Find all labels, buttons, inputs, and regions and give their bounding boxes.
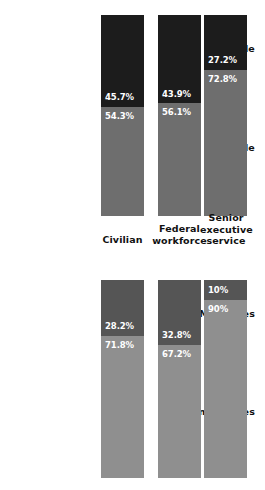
bar-value-nonminorities-federal-workforce: 67.2%	[162, 350, 191, 359]
bar-segment-male-senior-executive-service: 72.8%	[204, 70, 247, 216]
bar-civilian-gender: 45.7% 54.3%	[101, 15, 144, 216]
bar-segment-male-civilian: 54.3%	[101, 107, 144, 216]
bar-federal-workforce-ethnicity: 32.8% 67.2%	[158, 280, 201, 478]
category-label-civilian: Civilian	[96, 234, 149, 246]
bar-value-female-senior-executive-service: 27.2%	[208, 56, 237, 65]
bar-segment-male-federal-workforce: 56.1%	[158, 103, 201, 216]
bar-civilian-ethnicity: 28.2% 71.8%	[101, 280, 144, 478]
bar-segment-female-senior-executive-service: 27.2%	[204, 15, 247, 70]
bar-value-female-federal-workforce: 43.9%	[162, 90, 191, 99]
bar-value-nonminorities-civilian: 71.8%	[105, 341, 134, 350]
category-axis-labels: Civilian Federal workforce Senior execut…	[0, 221, 265, 265]
ethnicity-chart-panel: Minorities Nonminorities 28.2% 71.8% 32.…	[0, 265, 265, 490]
bar-value-male-civilian: 54.3%	[105, 112, 134, 121]
bar-value-minorities-senior-executive-service: 10%	[208, 286, 228, 295]
bar-value-nonminorities-senior-executive-service: 90%	[208, 305, 228, 314]
bar-segment-nonminorities-federal-workforce: 67.2%	[158, 345, 201, 478]
category-label-senior-executive-service: Senior executive service	[200, 212, 252, 247]
gender-chart-panel: Female Male 45.7% 54.3% 43.9% 56.1% 27.2…	[0, 0, 265, 232]
stacked-bar-chart-figure: Female Male 45.7% 54.3% 43.9% 56.1% 27.2…	[0, 0, 265, 490]
bar-segment-minorities-civilian: 28.2%	[101, 280, 144, 336]
bar-value-male-federal-workforce: 56.1%	[162, 108, 191, 117]
bar-segment-female-civilian: 45.7%	[101, 15, 144, 107]
bar-senior-executive-service-ethnicity: 10% 90%	[204, 280, 247, 478]
bar-value-male-senior-executive-service: 72.8%	[208, 75, 237, 84]
bar-federal-workforce-gender: 43.9% 56.1%	[158, 15, 201, 216]
bar-segment-minorities-federal-workforce: 32.8%	[158, 280, 201, 345]
bar-segment-nonminorities-senior-executive-service: 90%	[204, 300, 247, 478]
bar-segment-minorities-senior-executive-service: 10%	[204, 280, 247, 300]
bar-senior-executive-service-gender: 27.2% 72.8%	[204, 15, 247, 216]
bar-segment-nonminorities-civilian: 71.8%	[101, 336, 144, 478]
bar-value-female-civilian: 45.7%	[105, 93, 134, 102]
bar-value-minorities-civilian: 28.2%	[105, 322, 134, 331]
bar-segment-female-federal-workforce: 43.9%	[158, 15, 201, 103]
category-label-federal-workforce: Federal workforce	[152, 223, 207, 246]
bar-value-minorities-federal-workforce: 32.8%	[162, 331, 191, 340]
